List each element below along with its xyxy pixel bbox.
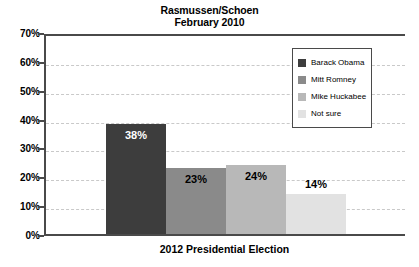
y-axis-tick-70: 70%: [6, 29, 40, 39]
legend-item-mitt-romney[interactable]: Mitt Romney: [298, 71, 367, 88]
legend-item-not-sure[interactable]: Not sure: [298, 105, 367, 122]
bar-value-label: 23%: [166, 173, 226, 185]
bar-mitt-romney[interactable]: 23%: [166, 168, 226, 234]
y-axis-tick-30: 30%: [6, 144, 40, 154]
legend-label: Mitt Romney: [311, 75, 356, 84]
legend-item-barack-obama[interactable]: Barack Obama: [298, 54, 367, 71]
legend-label: Not sure: [311, 109, 341, 118]
legend-swatch-icon: [298, 110, 306, 118]
y-axis-tick-50: 50%: [6, 87, 40, 97]
bar-not-sure[interactable]: 14%: [286, 194, 346, 234]
chart-title: Rasmussen/Schoen February 2010: [0, 4, 419, 28]
bar-mike-huckabee[interactable]: 24%: [226, 165, 286, 234]
chart-title-line-2: February 2010: [0, 16, 419, 28]
legend-swatch-icon: [298, 93, 306, 101]
bar-value-label: 38%: [106, 129, 166, 141]
y-axis-tick-60: 60%: [6, 58, 40, 68]
y-axis-tick-20: 20%: [6, 173, 40, 183]
y-axis-tick-40: 40%: [6, 116, 40, 126]
legend-swatch-icon: [298, 59, 306, 67]
bar-chart: Rasmussen/Schoen February 2010 70%60%50%…: [0, 0, 419, 267]
legend-swatch-icon: [298, 76, 306, 84]
bar-barack-obama[interactable]: 38%: [106, 124, 166, 234]
legend-label: Barack Obama: [311, 58, 364, 67]
bar-value-label: 24%: [226, 170, 286, 182]
chart-legend: Barack ObamaMitt RomneyMike HuckabeeNot …: [292, 48, 372, 128]
x-axis-label: 2012 Presidential Election: [44, 243, 405, 255]
legend-label: Mike Huckabee: [311, 92, 366, 101]
chart-title-line-1: Rasmussen/Schoen: [0, 4, 419, 16]
y-axis-tick-0: 0%: [6, 231, 40, 241]
bar-value-label: 14%: [286, 178, 346, 190]
y-axis-tick-10: 10%: [6, 202, 40, 212]
legend-item-mike-huckabee[interactable]: Mike Huckabee: [298, 88, 367, 105]
